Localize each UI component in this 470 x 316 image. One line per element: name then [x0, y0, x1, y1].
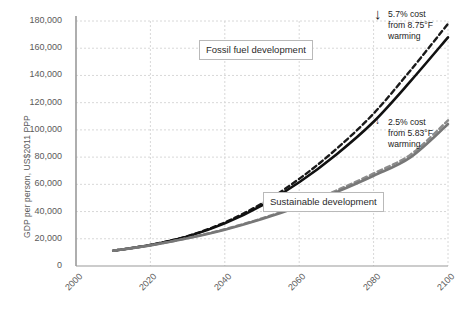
y-tick-label: 0 — [57, 261, 62, 270]
annotation-sustainable-cost: 2.5% cost from 5.83°F warming — [388, 117, 433, 150]
y-tick-label: 60,000 — [34, 179, 62, 188]
callout-fossil-fuel-development: Fossil fuel development — [199, 40, 313, 60]
y-tick-label: 160,000 — [29, 43, 62, 52]
y-tick-label: 120,000 — [29, 98, 62, 107]
y-tick-label: 180,000 — [29, 16, 62, 25]
y-tick-labels: 020,00040,00060,00080,000100,000120,0001… — [0, 0, 72, 316]
y-tick-label: 140,000 — [29, 70, 62, 79]
down-arrow-icon-sustainable: ↓ — [375, 116, 380, 126]
y-tick-label: 100,000 — [29, 125, 62, 134]
annotation-fossil-cost: 5.7% cost from 8.75°F warming — [388, 9, 433, 42]
y-axis-title: GDP per person, US$2011 PPP — [22, 115, 32, 238]
down-arrow-icon-fossil: ↓ — [374, 6, 382, 21]
callout-sustainable-development: Sustainable development — [263, 192, 384, 212]
gdp-projection-chart: 020,00040,00060,00080,000100,000120,0001… — [0, 0, 470, 316]
y-tick-label: 40,000 — [34, 207, 62, 216]
y-tick-label: 80,000 — [34, 152, 62, 161]
y-tick-label: 20,000 — [34, 234, 62, 243]
